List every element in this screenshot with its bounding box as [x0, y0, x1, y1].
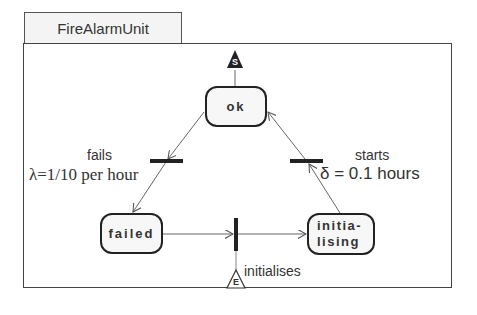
starts-transition-bar[interactable]	[290, 159, 323, 163]
fails-arc-in	[168, 112, 204, 159]
fails-transition-bar[interactable]	[150, 159, 183, 163]
end-marker-label: E	[226, 277, 246, 287]
fails-rate-text: λ=1/10 per hour	[29, 165, 138, 184]
initialises-transition-bar[interactable]	[234, 218, 238, 251]
state-initialising-label-line1: initia-	[317, 218, 362, 234]
state-ok[interactable]: ok	[205, 86, 267, 127]
starts-label: starts	[355, 147, 389, 163]
fails-rate-label: λ=1/10 per hour	[29, 165, 138, 185]
state-ok-label: ok	[226, 99, 245, 115]
starts-delay-label: δ = 0.1 hours	[320, 164, 420, 184]
start-marker-label: S	[225, 57, 245, 67]
state-initialising-label-line2: lising	[317, 234, 360, 250]
initialises-label: initialises	[244, 263, 301, 279]
state-initialising[interactable]: initia- lising	[307, 213, 375, 255]
state-failed-label: failed	[109, 226, 155, 242]
diagram-canvas	[0, 0, 477, 315]
state-failed[interactable]: failed	[100, 213, 163, 254]
fails-label: fails	[87, 147, 112, 163]
starts-arc-out	[268, 112, 305, 159]
